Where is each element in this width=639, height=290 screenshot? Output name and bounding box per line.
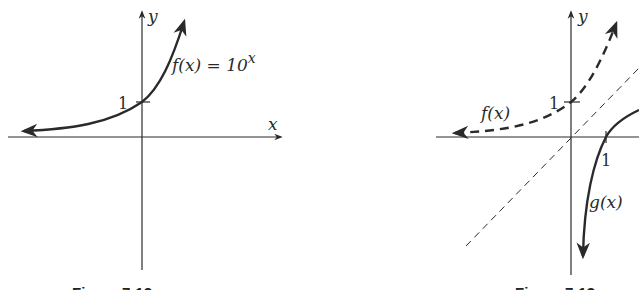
- figure-canvas: y x 1 f(x) = 10x Figure 7-12 y 1 1 f(x) …: [0, 0, 639, 290]
- left-exponential-curve: [24, 22, 184, 131]
- left-y-axis-label: y: [147, 6, 158, 26]
- f-label: f(x): [479, 103, 510, 123]
- g-label: g(x): [589, 192, 623, 212]
- right-y-tick-label: 1: [549, 94, 559, 113]
- left-caption: Figure 7-12: [72, 284, 152, 290]
- right-graph: y 1 1 f(x) g(x) Figure 7-13: [436, 6, 639, 290]
- left-graph: y x 1 f(x) = 10x Figure 7-12: [8, 6, 281, 290]
- left-y-tick-label: 1: [118, 94, 128, 113]
- left-curve-label: f(x) = 10x: [170, 50, 256, 75]
- right-y-axis-label: y: [577, 6, 588, 26]
- left-x-axis-label: x: [268, 114, 278, 134]
- right-caption: Figure 7-13: [515, 284, 595, 290]
- g-log-curve: [583, 110, 639, 256]
- right-x-tick-label: 1: [601, 151, 611, 170]
